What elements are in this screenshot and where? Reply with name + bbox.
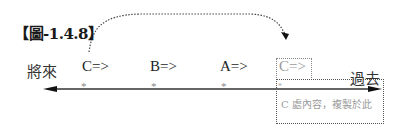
figure-title: 【圖-1.4.8】 xyxy=(14,22,102,43)
star-icon: * xyxy=(81,80,87,92)
star-icon: * xyxy=(151,80,157,92)
curved-dotted-arrow xyxy=(89,14,285,52)
timeline-left-arrowhead xyxy=(43,86,57,92)
marker-b: B=> xyxy=(150,58,177,75)
star-icon: * xyxy=(221,80,227,92)
curved-arrow-head xyxy=(281,32,289,40)
marker-c: C=> xyxy=(82,58,109,75)
copy-box-text: C 處內容，複製於此 xyxy=(281,96,372,111)
future-label: 將來 xyxy=(27,60,57,81)
marker-c-copy: C=> xyxy=(279,58,306,75)
marker-a: A=> xyxy=(220,58,248,75)
